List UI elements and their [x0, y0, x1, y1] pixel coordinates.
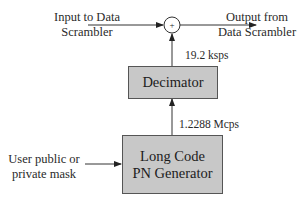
output-label-line1: Output from [210, 10, 304, 25]
adder-plus-icon: + [168, 18, 176, 33]
mask-label: User public or private mask [4, 152, 84, 182]
chip-rate-label: 1.2288 Mcps [179, 117, 239, 132]
pn-generator-line1: Long Code [132, 148, 212, 165]
output-label-line2: Data Scrambler [210, 25, 304, 40]
decimator-label: Decimator [142, 74, 203, 91]
symbol-rate-label: 19.2 ksps [185, 48, 228, 63]
mask-label-line2: private mask [4, 167, 84, 182]
pn-generator-line2: PN Generator [132, 165, 212, 182]
input-label-line2: Scrambler [46, 25, 128, 40]
input-label-line1: Input to Data [46, 10, 128, 25]
mask-label-line1: User public or [4, 152, 84, 167]
output-label: Output from Data Scrambler [210, 10, 304, 40]
decimator-block: Decimator [128, 66, 218, 99]
input-label: Input to Data Scrambler [46, 10, 128, 40]
pn-generator-block: Long Code PN Generator [122, 135, 223, 194]
